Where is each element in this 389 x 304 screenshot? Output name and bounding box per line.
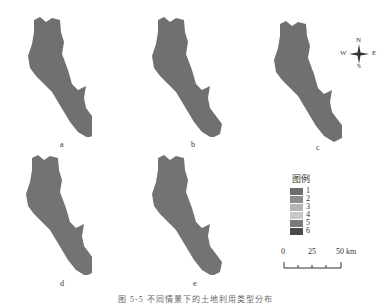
legend-item-6: 6 [290,227,310,235]
legend-label-6: 6 [306,227,310,235]
scale-label-25: 25 [308,247,316,256]
region-map-e [142,150,222,275]
legend-swatch-2 [290,196,303,203]
panel-label-d: d [60,279,64,288]
legend-title: 图例 [292,172,310,185]
panel-label-a: a [60,140,64,149]
scale-bar-line [281,260,361,270]
region-map-a [12,12,92,137]
map-panel-d [12,150,92,275]
scale-label-50: 50 km [336,247,356,256]
panel-label-e: e [193,279,197,288]
region-map-d [12,150,92,275]
panel-label-b: b [191,140,195,149]
map-panel-b [142,12,222,137]
north-arrow-compass: N W E S [338,36,382,80]
panel-label-c: c [316,143,320,152]
map-panel-e [142,150,222,275]
map-legend: 图例 1 2 3 4 5 6 [290,172,310,235]
legend-swatch-4 [290,212,303,219]
compass-w-label: W [340,49,347,57]
map-panel-a [12,12,92,137]
region-map-c [262,12,342,147]
compass-star-icon [349,44,369,64]
scale-bar: 0 25 50 km [281,247,361,271]
map-panel-c [262,12,342,147]
compass-n-label: N [356,36,361,44]
region-map-b [142,12,222,137]
legend-swatch-3 [290,204,303,211]
scale-label-0: 0 [281,247,285,256]
compass-e-label: E [372,49,376,57]
legend-swatch-6 [290,228,303,235]
legend-swatch-1 [290,188,303,195]
legend-swatch-5 [290,220,303,227]
figure-caption: 图 5-5 不同情景下的土地利用类型分布 [118,293,273,304]
